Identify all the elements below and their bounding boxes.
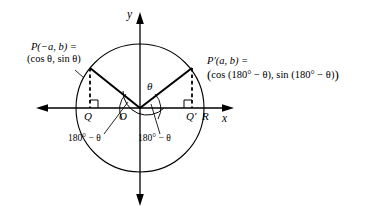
origin-label: O [119, 110, 127, 123]
point-Q-label: Q [84, 110, 92, 123]
figure-canvas: y x O P(−a, b) = (cos θ, sin θ) P′(a, b)… [0, 0, 382, 215]
theta-angle-label: θ [147, 80, 152, 93]
perpendicular-dropped-lines-group [90, 68, 192, 108]
x-axis-label: x [222, 112, 227, 126]
point-P-prime-coords-line: (cos (180° − θ), sin (180° − θ)) [207, 67, 339, 82]
supplement-angle-label-right: 180° − θ [138, 133, 171, 144]
right-angle-marker-Qprime [184, 100, 192, 108]
y-axis-bottom-arrowhead [136, 194, 144, 206]
right-angle-marker-Q [90, 100, 98, 108]
x-axis-left-arrowhead [36, 104, 48, 112]
point-P-prime-coords: cos (180° − θ), sin (180° − θ) [211, 69, 334, 81]
unit-circle-diagram-svg [0, 0, 382, 215]
x-axis-right-arrowhead [222, 104, 234, 112]
y-axis-top-arrowhead [136, 12, 144, 24]
point-R-label: R [202, 110, 209, 123]
point-P-prime-name: P′(a, b) = [207, 55, 339, 67]
point-P-name: P(−a, b) = [27, 41, 81, 53]
y-axis-label: y [127, 8, 132, 22]
point-Q-prime-label: Q′ [186, 110, 196, 123]
leader-line-P-label [75, 70, 84, 78]
coords-close-paren: ) [334, 67, 338, 82]
point-P-coords: (cos θ, sin θ) [27, 53, 81, 65]
supplement-angle-label-left: 180° − θ [68, 133, 101, 144]
point-P-prime-label-group: P′(a, b) = (cos (180° − θ), sin (180° − … [207, 55, 339, 83]
supplement-right-angle-arc [155, 94, 161, 119]
point-P-label-group: P(−a, b) = (cos θ, sin θ) [27, 41, 81, 66]
terminal-rays-group [90, 68, 192, 108]
